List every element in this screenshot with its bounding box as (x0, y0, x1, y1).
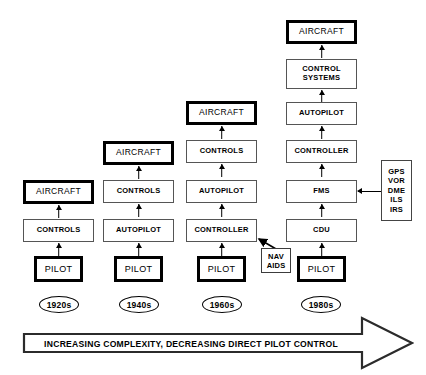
arrowhead-left-icon (357, 188, 362, 194)
node-aircraft-1940s: AIRCRAFT (103, 141, 174, 165)
sensor-item-ils: ILS (390, 195, 402, 205)
node-autopilot-1940s: AUTOPILOT (103, 219, 174, 242)
node-autopilot-1960s: AUTOPILOT (186, 180, 257, 203)
decade-label-1980s: 1980s (301, 296, 341, 313)
node-pilot-1920s: PILOT (34, 256, 83, 282)
node-controller-1960s: CONTROLLER (186, 219, 257, 242)
connector-sensors-to-fms (358, 191, 382, 193)
node-pilot-1960s: PILOT (197, 256, 246, 282)
decade-label-1940s: 1940s (119, 296, 159, 313)
decade-label-1960s: 1960s (202, 296, 242, 313)
node-controls-1940s: CONTROLS (103, 180, 174, 203)
node-aircraft-1920s: AIRCRAFT (23, 180, 94, 204)
node-controls-1920s: CONTROLS (23, 219, 94, 242)
node-sensors-list: GPS VOR DME ILS IRS (381, 160, 412, 221)
node-control-systems-1980s: CONTROL SYSTEMS (286, 59, 357, 89)
node-controller-1980s: CONTROLLER (286, 140, 357, 163)
node-fms-1980s: FMS (286, 180, 357, 203)
node-nav-aids: NAV AIDS (261, 248, 291, 273)
node-controls-1960s: CONTROLS (186, 140, 257, 163)
node-aircraft-1980s: AIRCRAFT (286, 20, 357, 44)
node-aircraft-1960s: AIRCRAFT (186, 101, 257, 125)
bottom-trend-arrow-label: INCREASING COMPLEXITY, DECREASING DIRECT… (26, 334, 356, 354)
sensor-item-vor: VOR (388, 176, 405, 186)
node-autopilot-1980s: AUTOPILOT (286, 102, 357, 125)
node-cdu-1980s: CDU (286, 219, 357, 242)
sensor-item-gps: GPS (388, 167, 404, 177)
diagram-canvas: AIRCRAFT CONTROLS PILOT 1920s AIRCRAFT C… (0, 0, 426, 375)
decade-label-1920s: 1920s (39, 296, 79, 313)
node-pilot-1940s: PILOT (114, 256, 163, 282)
node-pilot-1980s: PILOT (297, 256, 346, 282)
sensor-item-dme: DME (388, 186, 405, 196)
sensor-item-irs: IRS (390, 205, 403, 215)
